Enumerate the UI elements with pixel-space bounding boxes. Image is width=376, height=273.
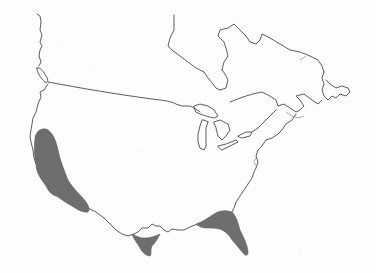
maritime-coast [266,114,296,140]
pacific-coast-canada [37,14,42,66]
lake-huron [214,120,230,140]
us-canada-border [48,82,200,112]
range-map [0,0,376,273]
lake-michigan [198,120,208,150]
shaded-regions [34,129,248,256]
atlantic-coast [232,140,266,212]
paper-texture [40,39,351,250]
vancouver-island [37,68,48,83]
labrador-coast [322,72,350,100]
lake-erie [218,140,238,150]
hudson-bay-east-shore [218,24,324,72]
lake-ontario [238,132,252,138]
chesapeake-bay [254,158,256,166]
north-america-map [0,0,376,273]
hudson-strait-hint [300,56,306,60]
region-california-baja [34,129,89,212]
hudson-bay-west-shore [168,15,228,90]
st-lawrence-river [252,110,276,132]
us-mexico-border [88,208,134,236]
region-south-texas [132,234,160,256]
lake-superior [194,104,218,118]
gulf-st-lawrence [230,92,322,112]
gulf-coast [134,224,200,234]
region-florida-gulf [196,211,248,256]
